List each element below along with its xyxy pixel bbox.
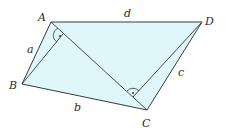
right-angle-dot-d xyxy=(132,92,134,94)
side-label-a: a xyxy=(27,43,34,56)
quadrilateral-fill xyxy=(22,22,202,110)
vertex-label-b: B xyxy=(8,79,17,92)
vertex-label-a: A xyxy=(37,11,46,24)
side-label-b: b xyxy=(74,101,81,114)
quadrilateral-diagram: A B C D a b c d xyxy=(0,0,236,137)
vertex-label-d: D xyxy=(204,15,214,28)
side-label-d: d xyxy=(124,7,131,20)
right-angle-dot-b xyxy=(59,35,61,37)
vertex-label-c: C xyxy=(142,117,151,130)
side-label-c: c xyxy=(178,66,184,79)
